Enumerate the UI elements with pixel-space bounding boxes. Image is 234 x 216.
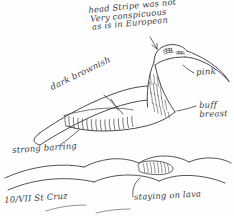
annotation-buff-breast-line2: breast <box>199 109 227 119</box>
annotation-pink: pink <box>196 67 216 77</box>
leader-line-buff-breast <box>177 106 196 111</box>
head-stripe-hatching <box>163 48 185 54</box>
leader-line-dark-brownish <box>104 95 123 114</box>
bird-head <box>154 45 229 82</box>
lava-rock-detail <box>138 161 173 175</box>
bird-body-wing <box>34 86 175 145</box>
leader-line-pink <box>183 65 194 73</box>
bird-neck-breast <box>147 62 175 112</box>
leader-line-head-stripe <box>150 37 157 49</box>
lava-rock-hatching <box>143 162 169 173</box>
lava-ground <box>5 156 231 190</box>
field-sketch-page: head Stripe was not Very conspicuous as … <box>0 0 234 216</box>
annotation-buff-breast: buff breast <box>199 100 228 119</box>
paper-edge-marks <box>46 205 130 213</box>
